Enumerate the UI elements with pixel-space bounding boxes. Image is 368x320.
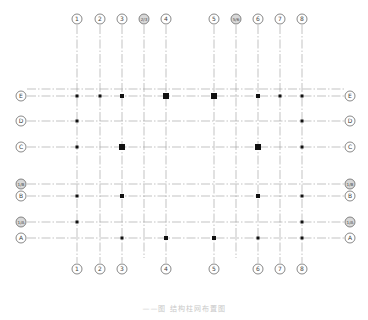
row-bubble-left-B-label: B <box>19 192 23 199</box>
grid-drawing: 1122332/344555/6667788EEDDCC1/B1/BBB1/A1… <box>0 0 368 320</box>
axis-bubble-top-5-label: 5 <box>212 15 216 22</box>
axis-bubble-top-3-label: 3 <box>120 15 124 22</box>
axis-bubble-bottom-7-label: 7 <box>278 265 282 272</box>
structural-column-1-B <box>76 195 79 198</box>
structural-column-8-B <box>301 195 304 198</box>
row-bubble-right-C-label: C <box>348 143 352 150</box>
axis-bubble-bottom-3-label: 3 <box>120 265 124 272</box>
axis-bubble-top-8-label: 8 <box>300 15 304 22</box>
axis-bubble-top-7-label: 7 <box>278 15 282 22</box>
structural-column-1-1-A <box>76 221 79 224</box>
structural-column-3-C <box>119 144 125 150</box>
axis-bubble-top-6-label: 6 <box>256 15 260 22</box>
row-bubble-right-1-A-label: 1/A <box>347 220 354 225</box>
structural-column-6-A <box>257 237 260 240</box>
structural-column-3-E <box>120 94 124 98</box>
row-bubble-left-D-label: D <box>19 117 24 124</box>
drawing-caption: ——图 结构柱网布置图 <box>0 303 368 313</box>
structural-column-8-D <box>301 120 304 123</box>
row-bubble-left-1-B-label: 1/B <box>18 182 25 187</box>
grid-plan-svg: 1122332/344555/6667788EEDDCC1/B1/BBB1/A1… <box>0 0 368 320</box>
structural-column-1-C <box>76 146 79 149</box>
structural-column-4-E <box>163 93 169 99</box>
structural-column-6-C <box>255 144 261 150</box>
axis-bubble-bottom-2-label: 2 <box>98 265 102 272</box>
row-bubble-right-D-label: D <box>348 117 353 124</box>
axis-bubble-bottom-4-label: 4 <box>164 265 168 272</box>
row-bubble-left-E-label: E <box>19 92 23 99</box>
structural-column-5-E <box>211 93 217 99</box>
row-bubble-left-1-A-label: 1/A <box>18 220 25 225</box>
structural-column-3-A <box>121 237 124 240</box>
axis-bubble-bottom-6-label: 6 <box>256 265 260 272</box>
structural-column-2-E <box>99 95 102 98</box>
structural-column-8-A <box>301 237 304 240</box>
structural-column-6-B <box>256 194 260 198</box>
structural-column-3-B <box>120 194 124 198</box>
structural-column-5-A <box>212 236 216 240</box>
axis-bubble-top-1-label: 1 <box>75 15 79 22</box>
row-bubble-left-C-label: C <box>19 143 23 150</box>
row-bubble-right-B-label: B <box>348 192 352 199</box>
structural-column-1-E <box>76 95 79 98</box>
row-bubble-right-E-label: E <box>348 92 352 99</box>
axis-bubble-top-2-label: 2 <box>98 15 102 22</box>
structural-column-7-E <box>279 95 282 98</box>
structural-column-1-D <box>76 120 79 123</box>
axis-bubble-bottom-5-label: 5 <box>212 265 216 272</box>
axis-bubble-bottom-8-label: 8 <box>300 265 304 272</box>
axis-bubble-top-5-6-label: 5/6 <box>233 17 240 22</box>
row-bubble-right-1-B-label: 1/B <box>347 182 354 187</box>
structural-column-4-A <box>164 236 168 240</box>
axis-bubble-top-4-label: 4 <box>164 15 168 22</box>
structural-column-6-E <box>256 94 260 98</box>
axis-bubble-bottom-1-label: 1 <box>75 265 79 272</box>
structural-column-8-E <box>301 95 304 98</box>
structural-column-8-C <box>301 146 304 149</box>
structural-column-8-1-A <box>301 221 304 224</box>
axis-bubble-top-2-3-label: 2/3 <box>141 17 148 22</box>
